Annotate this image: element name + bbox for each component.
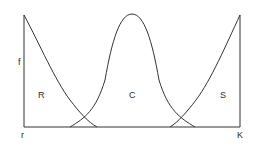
region-label-c: C — [129, 90, 136, 100]
region-label-r: R — [38, 90, 45, 100]
x-axis-end-label: K — [237, 130, 243, 140]
rck-strategy-diagram: f R C S r K — [0, 0, 254, 143]
s-curve — [170, 15, 240, 127]
c-curve — [70, 14, 195, 127]
region-label-s: S — [220, 90, 226, 100]
r-curve — [24, 15, 97, 127]
x-axis-start-label: r — [21, 130, 24, 140]
y-axis-label: f — [18, 57, 21, 67]
